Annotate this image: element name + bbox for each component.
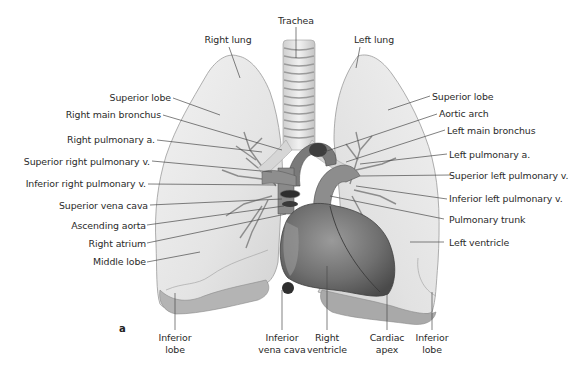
label-superior-right-pulmonary-vein: Superior right pulmonary v. bbox=[24, 156, 150, 167]
label-left-main-bronchus: Left main bronchus bbox=[447, 125, 535, 136]
heart-lungs-illustration bbox=[0, 0, 585, 382]
label-left-ventricle: Left ventricle bbox=[449, 237, 509, 248]
panel-letter: a bbox=[119, 323, 126, 334]
label-right-lung: Right lung bbox=[196, 34, 260, 45]
label-left-superior-lobe: Superior lobe bbox=[432, 91, 493, 102]
label-left-pulmonary-artery: Left pulmonary a. bbox=[449, 149, 530, 160]
label-pulmonary-trunk: Pulmonary trunk bbox=[449, 214, 525, 225]
label-right-main-bronchus: Right main bronchus bbox=[66, 109, 161, 120]
label-right-inferior-lobe: Inferior lobe bbox=[150, 332, 200, 355]
label-inferior-right-pulmonary-vein: Inferior right pulmonary v. bbox=[26, 178, 146, 189]
anatomy-figure: a Trachea Right lung Left lung Superior … bbox=[0, 0, 585, 382]
label-left-lung: Left lung bbox=[346, 34, 402, 45]
label-right-atrium: Right atrium bbox=[89, 238, 146, 249]
label-right-ventricle: Right ventricle bbox=[304, 332, 350, 355]
label-middle-lobe: Middle lobe bbox=[93, 256, 146, 267]
label-cardiac-apex: Cardiac apex bbox=[364, 332, 410, 355]
label-aortic-arch: Aortic arch bbox=[439, 108, 489, 119]
label-left-inferior-lobe: Inferior lobe bbox=[408, 332, 456, 355]
label-superior-left-pulmonary-vein: Superior left pulmonary v. bbox=[449, 170, 568, 181]
label-right-pulmonary-artery: Right pulmonary a. bbox=[67, 134, 155, 145]
label-right-superior-lobe: Superior lobe bbox=[110, 92, 171, 103]
label-ascending-aorta: Ascending aorta bbox=[71, 220, 146, 231]
label-superior-vena-cava: Superior vena cava bbox=[59, 200, 148, 211]
label-trachea: Trachea bbox=[272, 15, 320, 26]
label-inferior-vena-cava: Inferior vena cava bbox=[255, 332, 309, 355]
label-inferior-left-pulmonary-vein: Inferior left pulmonary v. bbox=[449, 193, 563, 204]
